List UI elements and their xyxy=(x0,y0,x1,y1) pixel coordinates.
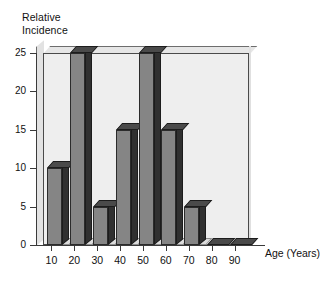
bar-40[interactable] xyxy=(116,130,131,245)
y-tick-mark xyxy=(30,168,36,169)
y-tick-label: 0 xyxy=(4,240,26,250)
bar-side-face xyxy=(154,47,161,245)
x-tick-mark xyxy=(212,246,213,251)
y-tick-mark xyxy=(30,130,36,131)
x-tick-label: 20 xyxy=(62,255,86,266)
bar-20[interactable] xyxy=(70,53,85,245)
bar-front-face xyxy=(93,207,108,245)
x-tick-label: 90 xyxy=(223,255,247,266)
bar-90[interactable] xyxy=(230,244,245,245)
y-axis-line xyxy=(36,53,37,246)
bar-front-face xyxy=(139,53,154,245)
bar-front-face xyxy=(184,207,199,245)
x-tick-mark xyxy=(120,246,121,251)
y-tick-label: 10 xyxy=(4,163,26,173)
x-tick-mark xyxy=(189,246,190,251)
y-axis-title: Relative Incidence xyxy=(22,11,68,36)
bar-50[interactable] xyxy=(139,53,154,245)
x-tick-mark xyxy=(143,246,144,251)
x-tick-label: 70 xyxy=(177,255,201,266)
bar-side-face xyxy=(131,124,138,245)
bar-60[interactable] xyxy=(161,130,176,245)
bar-front-face xyxy=(161,130,176,245)
y-tick-label: 20 xyxy=(4,86,26,96)
x-tick-label: 40 xyxy=(108,255,132,266)
y-tick-mark xyxy=(30,53,36,54)
bar-chart: Relative Incidence 0510152025 1020304050… xyxy=(0,0,334,284)
bar-front-face xyxy=(47,168,62,245)
x-tick-mark xyxy=(97,246,98,251)
x-tick-label: 80 xyxy=(200,255,224,266)
bar-side-face xyxy=(176,124,183,245)
bar-10[interactable] xyxy=(47,168,62,245)
plot-right-wall xyxy=(249,46,251,245)
bar-30[interactable] xyxy=(93,207,108,245)
bar-70[interactable] xyxy=(184,207,199,245)
x-tick-mark xyxy=(166,246,167,251)
x-axis-title: Age (Years) xyxy=(265,248,320,259)
bar-front-face xyxy=(116,130,131,245)
y-tick-label: 15 xyxy=(4,125,26,135)
bar-80[interactable] xyxy=(207,244,222,245)
x-tick-label: 60 xyxy=(154,255,178,266)
x-tick-mark xyxy=(51,246,52,251)
y-tick-mark xyxy=(30,91,36,92)
x-tick-mark xyxy=(74,246,75,251)
x-tick-label: 30 xyxy=(85,255,109,266)
y-tick-label: 5 xyxy=(4,202,26,212)
bar-side-face xyxy=(199,201,206,245)
x-tick-label: 10 xyxy=(39,255,63,266)
bar-side-face xyxy=(85,47,92,245)
x-axis-line xyxy=(36,245,265,246)
x-tick-mark xyxy=(235,246,236,251)
bar-front-face xyxy=(70,53,85,245)
y-tick-mark xyxy=(30,207,36,208)
y-tick-mark xyxy=(30,245,36,246)
bar-top-face xyxy=(230,238,258,245)
bar-side-face xyxy=(62,162,69,245)
x-tick-label: 50 xyxy=(131,255,155,266)
bar-side-face xyxy=(108,201,115,245)
y-tick-label: 25 xyxy=(4,48,26,58)
